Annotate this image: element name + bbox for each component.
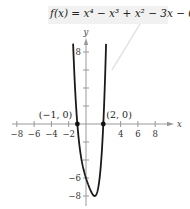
x-tick-label: −8 (11, 129, 24, 139)
x-tick-label: −4 (45, 129, 58, 139)
x-axis-label: x (177, 119, 182, 129)
x-tick-label: −6 (28, 129, 41, 139)
leader-line (112, 24, 140, 70)
y-axis-arrow-icon (84, 38, 88, 45)
y-tick-label: −8 (68, 191, 81, 201)
x-tick-label: 4 (118, 129, 123, 139)
y-axis-label: y (83, 27, 89, 37)
y-tick-label: 8 (76, 47, 81, 57)
axes: xy (12, 27, 182, 206)
x-tick-label: −2 (62, 129, 75, 139)
x-tick-label: 8 (152, 129, 157, 139)
zero-point (101, 122, 106, 127)
x-tick-label: 6 (135, 129, 140, 139)
graph: xy −8−6−4−24688−6−8 (−1, 0)(2, 0) (0, 0, 190, 209)
zero-point-label: (−1, 0) (39, 109, 73, 120)
zero-point-label: (2, 0) (106, 109, 132, 120)
x-axis-arrow-icon (167, 122, 174, 126)
y-tick-label: −6 (68, 173, 81, 183)
zero-point (75, 122, 80, 127)
